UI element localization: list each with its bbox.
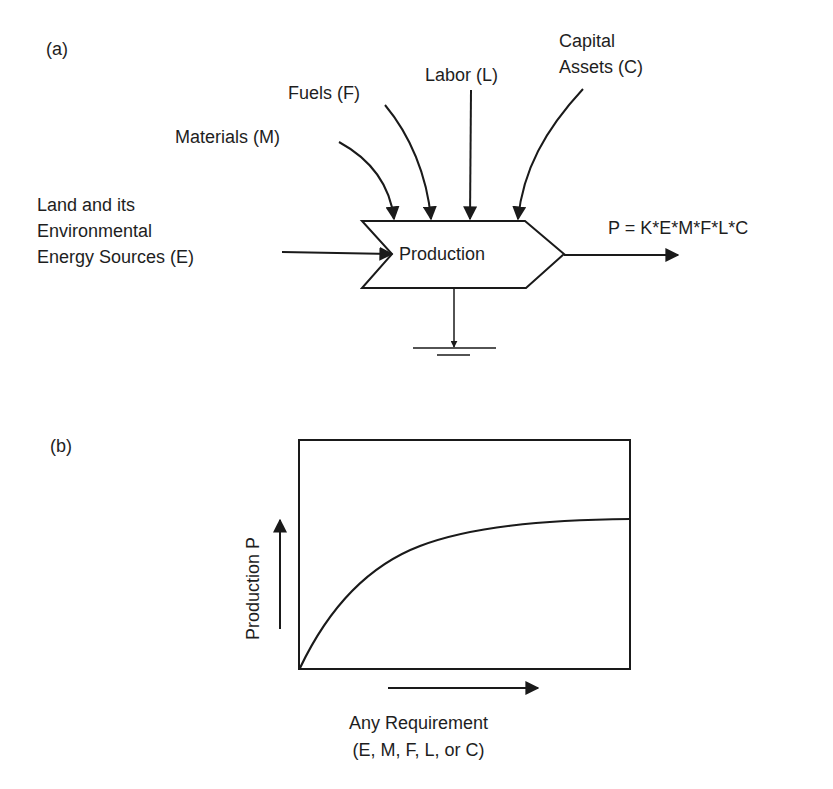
chart-frame bbox=[299, 440, 630, 669]
x-axis-label: Any Requirement (E, M, F, L, or C) bbox=[349, 710, 488, 764]
diagram-canvas bbox=[0, 0, 833, 789]
capital-assets-label: Capital Assets (C) bbox=[559, 28, 643, 80]
materials-label: Materials (M) bbox=[175, 126, 280, 148]
production-curve bbox=[300, 519, 630, 668]
materials-input-arrow bbox=[339, 142, 394, 219]
production-label: Production bbox=[399, 243, 485, 265]
panel-a-label: (a) bbox=[46, 38, 68, 60]
labor-input-arrow bbox=[470, 90, 471, 219]
fuels-label: Fuels (F) bbox=[288, 82, 360, 104]
capital-input-arrow bbox=[518, 89, 583, 219]
y-axis-label: Production P bbox=[242, 537, 264, 640]
energy-sources-label: Land and its Environmental Energy Source… bbox=[37, 192, 194, 270]
energy-input-arrow bbox=[282, 252, 392, 254]
output-equation: P = K*E*M*F*L*C bbox=[608, 217, 748, 239]
labor-label: Labor (L) bbox=[425, 64, 498, 86]
fuels-input-arrow bbox=[385, 105, 431, 219]
ground-symbol-icon bbox=[413, 348, 496, 355]
panel-b-label: (b) bbox=[50, 435, 72, 457]
